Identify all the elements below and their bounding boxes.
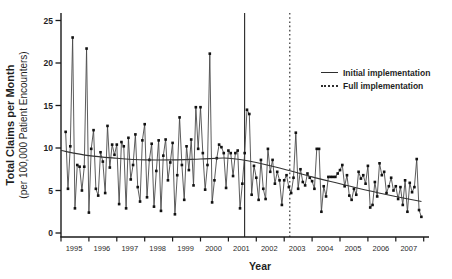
data-point-marker xyxy=(413,186,416,189)
data-point-marker xyxy=(113,154,116,157)
claims-time-series-figure: 0510152025199519961997199819992000200120… xyxy=(0,0,452,279)
data-point-marker xyxy=(76,164,79,167)
y-tick-label: 0 xyxy=(48,228,53,238)
data-point-marker xyxy=(211,201,214,204)
data-point-marker xyxy=(169,161,172,164)
data-point-marker xyxy=(241,182,244,185)
x-tick-label: 2006 xyxy=(373,244,390,253)
data-point-marker xyxy=(283,179,286,182)
data-point-marker xyxy=(367,165,370,168)
data-point-marker xyxy=(290,192,293,195)
data-point-marker xyxy=(116,143,119,146)
data-point-marker xyxy=(406,210,409,213)
data-point-marker xyxy=(150,142,153,145)
data-point-marker xyxy=(95,188,98,191)
data-point-marker xyxy=(102,160,105,163)
data-point-marker xyxy=(281,204,284,207)
data-point-marker xyxy=(178,116,181,119)
legend-label-full-implementation: Full implementation xyxy=(343,81,423,91)
data-point-marker xyxy=(257,199,260,202)
data-point-marker xyxy=(129,178,132,181)
data-point-marker xyxy=(327,176,330,179)
data-point-marker xyxy=(104,192,107,195)
data-point-marker xyxy=(390,176,393,179)
data-point-marker xyxy=(395,185,398,188)
data-point-marker xyxy=(360,177,363,180)
data-point-marker xyxy=(378,162,381,165)
data-point-marker xyxy=(371,204,374,207)
data-point-marker xyxy=(339,169,342,172)
data-point-marker xyxy=(120,141,123,144)
data-point-marker xyxy=(418,209,421,212)
y-tick-label: 10 xyxy=(44,143,54,153)
data-point-marker xyxy=(297,188,300,191)
data-point-marker xyxy=(190,138,193,141)
data-point-marker xyxy=(322,185,325,188)
data-series-line xyxy=(66,38,422,217)
data-point-marker xyxy=(162,154,165,157)
data-point-marker xyxy=(255,176,258,179)
legend: Initial implementation Full implementati… xyxy=(321,66,430,92)
data-point-marker xyxy=(213,179,216,182)
data-point-marker xyxy=(88,211,91,214)
data-point-marker xyxy=(334,176,337,179)
data-point-marker xyxy=(146,196,149,199)
data-point-marker xyxy=(153,205,156,208)
data-point-marker xyxy=(171,142,174,145)
data-point-marker xyxy=(118,203,121,206)
data-point-marker xyxy=(267,148,270,151)
data-point-marker xyxy=(195,106,198,109)
data-point-marker xyxy=(304,184,307,187)
data-point-marker xyxy=(320,210,323,213)
y-axis-label-line1: Total Claims per Month xyxy=(4,5,17,245)
chart-plot-area: 0510152025199519961997199819992000200120… xyxy=(0,0,452,279)
data-point-marker xyxy=(83,165,86,168)
data-point-marker xyxy=(157,139,160,142)
y-tick-label: 25 xyxy=(44,16,54,26)
data-point-marker xyxy=(134,133,137,136)
data-point-marker xyxy=(264,198,267,201)
data-point-marker xyxy=(341,164,344,167)
data-point-marker xyxy=(248,113,251,116)
data-point-marker xyxy=(225,187,228,190)
data-point-marker xyxy=(125,207,128,210)
data-point-marker xyxy=(188,169,191,172)
x-tick-label: 2004 xyxy=(317,244,334,253)
data-point-marker xyxy=(197,148,200,151)
data-point-marker xyxy=(164,138,167,141)
data-point-marker xyxy=(239,207,242,210)
data-point-marker xyxy=(306,172,309,175)
data-point-marker xyxy=(404,179,407,182)
x-tick-label: 2005 xyxy=(345,244,362,253)
data-point-marker xyxy=(271,159,274,162)
data-point-marker xyxy=(185,145,188,148)
data-point-marker xyxy=(260,159,263,162)
data-point-marker xyxy=(262,188,265,191)
data-point-marker xyxy=(222,152,225,155)
data-point-marker xyxy=(85,47,88,50)
y-tick-label: 20 xyxy=(44,58,54,68)
data-point-marker xyxy=(90,148,93,151)
data-point-marker xyxy=(136,186,139,189)
data-point-marker xyxy=(374,181,377,184)
x-tick-label: 1999 xyxy=(177,244,194,253)
data-point-marker xyxy=(199,106,202,109)
data-point-marker xyxy=(411,191,414,194)
data-point-marker xyxy=(69,145,72,148)
data-point-marker xyxy=(111,143,114,146)
x-tick-label: 1996 xyxy=(94,244,111,253)
data-point-marker xyxy=(376,195,379,198)
data-point-marker xyxy=(388,185,391,188)
data-point-marker xyxy=(67,188,70,191)
data-point-marker xyxy=(302,181,305,184)
data-point-marker xyxy=(364,182,367,185)
dotted-line-sample-icon xyxy=(321,85,338,87)
data-point-marker xyxy=(202,152,205,155)
data-point-marker xyxy=(139,200,142,203)
data-point-marker xyxy=(229,152,232,155)
data-point-marker xyxy=(232,175,235,178)
x-tick-label: 1998 xyxy=(149,244,166,253)
data-point-marker xyxy=(401,204,404,207)
x-tick-label: 2003 xyxy=(289,244,306,253)
data-point-marker xyxy=(348,194,351,197)
